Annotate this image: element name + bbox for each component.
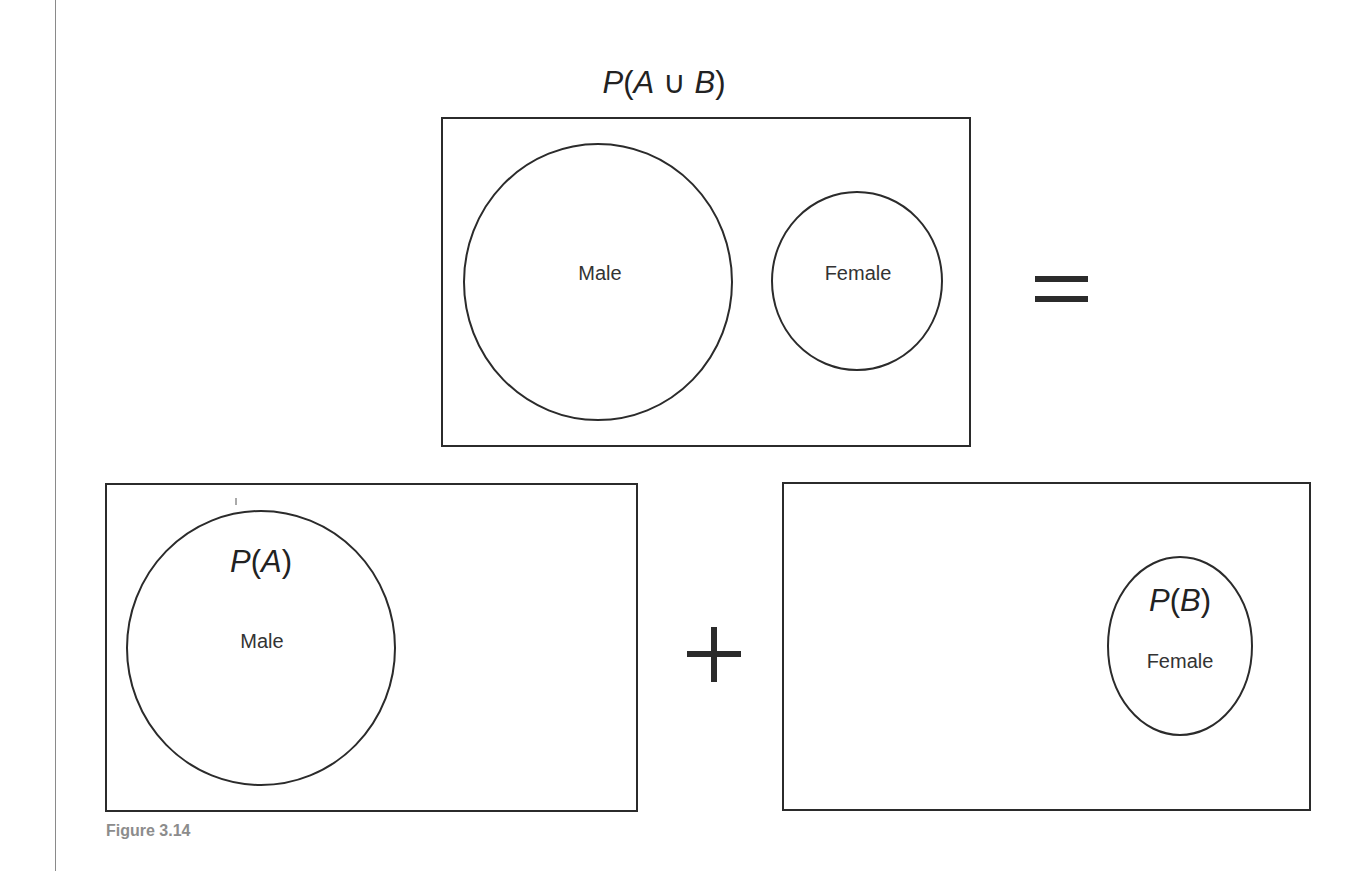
- female-label: Female: [825, 262, 892, 284]
- venn-figure: P(A ∪ B) Male Female P(A) Male P(B) Fema…: [0, 0, 1362, 871]
- event-b-title: P(B): [1149, 583, 1211, 618]
- union-title: P(A ∪ B): [603, 65, 726, 100]
- event-a-title: P(A): [230, 544, 292, 579]
- event-b-label: Female: [1147, 650, 1214, 672]
- male-label: Male: [578, 262, 621, 284]
- equals-sign-icon: [1035, 276, 1088, 302]
- plus-sign-icon: [687, 627, 741, 682]
- event-a-label: Male: [240, 630, 283, 652]
- figure-caption: Figure 3.14: [106, 822, 190, 840]
- event-b-sample-space: [783, 483, 1310, 810]
